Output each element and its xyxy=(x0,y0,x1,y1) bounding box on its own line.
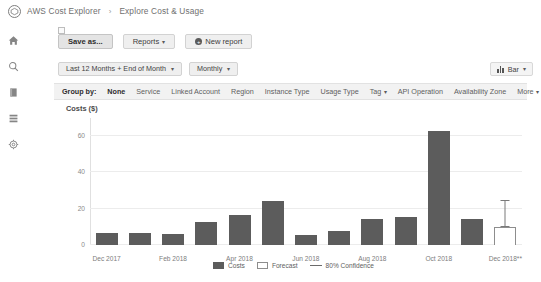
x-axis-tick-slot: Aug 2018 xyxy=(356,247,389,259)
legend-item-costs: Costs xyxy=(213,262,245,269)
chart-type-dropdown[interactable]: Bar ▾ xyxy=(490,62,533,76)
cost-bar[interactable] xyxy=(195,222,217,245)
legend-item-forecast: Forecast xyxy=(257,262,298,269)
x-axis-tick-slot xyxy=(123,247,156,259)
bar-slot[interactable] xyxy=(123,118,156,245)
chevron-down-icon: ▾ xyxy=(384,89,387,95)
legend-item-confidence: 80% Confidence xyxy=(310,262,374,269)
cost-chart: Costs ($) 0204060 Dec 2017Feb 2018Apr 20… xyxy=(54,102,533,272)
y-axis-tick-label: 0 xyxy=(81,241,85,248)
cost-bar[interactable] xyxy=(262,201,284,245)
group-by-item-api-operation[interactable]: API Operation xyxy=(398,87,443,96)
cost-bar[interactable] xyxy=(162,234,184,245)
group-by-more-label: More xyxy=(517,87,533,96)
group-by-item-tag-label: Tag xyxy=(370,87,382,96)
granularity-label: Monthly xyxy=(197,65,222,72)
report-toolbar: Save as... Reports ▾ + New report xyxy=(58,34,252,49)
x-axis-labels: Dec 2017Feb 2018Apr 2018Jun 2018Aug 2018… xyxy=(90,247,522,259)
bar-slot[interactable] xyxy=(489,118,522,245)
x-axis-tick-label: Oct 2018 xyxy=(425,255,452,262)
cost-bar[interactable] xyxy=(295,235,317,245)
bar-slot[interactable] xyxy=(256,118,289,245)
group-by-item-instance-type[interactable]: Instance Type xyxy=(265,87,310,96)
bar-slot[interactable] xyxy=(90,118,123,245)
group-by-item-none[interactable]: None xyxy=(107,87,125,96)
new-report-label: New report xyxy=(205,38,242,46)
x-axis-tick-label: Apr 2018 xyxy=(226,255,253,262)
x-axis-tick-label: Aug 2018 xyxy=(358,255,386,262)
y-axis-tick-label: 20 xyxy=(78,204,85,211)
bar-slot[interactable] xyxy=(389,118,422,245)
chart-title: Costs ($) xyxy=(66,104,98,113)
legend-label-confidence: 80% Confidence xyxy=(326,262,374,269)
x-axis-tick-label: Feb 2018 xyxy=(159,255,187,262)
cost-bar[interactable] xyxy=(229,215,251,245)
legend-label-forecast: Forecast xyxy=(272,262,298,269)
page-title: Explore Cost & Usage xyxy=(119,6,204,16)
panel-corner-marker xyxy=(58,27,65,34)
reports-label: Reports xyxy=(133,38,160,46)
app-title[interactable]: AWS Cost Explorer xyxy=(27,6,101,16)
cost-bar[interactable] xyxy=(461,219,483,245)
save-as-button[interactable]: Save as... xyxy=(58,34,113,49)
group-by-bar: Group by: None Service Linked Account Re… xyxy=(54,83,527,100)
x-axis-tick-label: Dec 2018** xyxy=(489,255,522,262)
bar-slot[interactable] xyxy=(190,118,223,245)
group-by-item-availability-zone[interactable]: Availability Zone xyxy=(454,87,506,96)
bar-slot[interactable] xyxy=(323,118,356,245)
sidebar-item-home[interactable] xyxy=(7,34,20,47)
group-by-item-linked-account[interactable]: Linked Account xyxy=(171,87,220,96)
save-as-label: Save as... xyxy=(68,38,103,46)
sidebar-item-settings[interactable] xyxy=(7,138,20,151)
x-axis-tick-slot xyxy=(389,247,422,259)
filter-bar: Last 12 Months + End of Month ▾ Monthly … xyxy=(58,62,523,76)
group-by-item-tag[interactable]: Tag ▾ xyxy=(370,87,387,96)
breadcrumb: AWS Cost Explorer › Explore Cost & Usage xyxy=(0,0,541,22)
date-range-label: Last 12 Months + End of Month xyxy=(66,65,166,72)
bar-slot[interactable] xyxy=(156,118,189,245)
x-axis-tick-label: Dec 2017 xyxy=(92,255,120,262)
confidence-interval-whisker xyxy=(505,200,506,227)
legend-swatch-confidence xyxy=(310,265,322,266)
bar-slot[interactable] xyxy=(289,118,322,245)
bar-group xyxy=(90,118,522,245)
chart-plot-area: 0204060 xyxy=(90,118,522,245)
cost-bar[interactable] xyxy=(129,233,151,245)
group-by-label: Group by: xyxy=(62,87,96,96)
sidebar-item-list[interactable] xyxy=(7,112,20,125)
cost-bar[interactable] xyxy=(428,131,450,245)
bar-slot[interactable] xyxy=(422,118,455,245)
sidebar-item-search[interactable] xyxy=(7,60,20,73)
group-by-item-region[interactable]: Region xyxy=(231,87,254,96)
cost-bar[interactable] xyxy=(96,233,118,245)
forecast-bar[interactable] xyxy=(494,227,516,245)
bar-slot[interactable] xyxy=(356,118,389,245)
cost-bar[interactable] xyxy=(361,219,383,245)
group-by-item-usage-type[interactable]: Usage Type xyxy=(320,87,358,96)
cost-bar[interactable] xyxy=(328,231,350,246)
cost-explorer-window: AWS Cost Explorer › Explore Cost & Usage xyxy=(0,0,541,282)
chart-legend: Costs Forecast 80% Confidence xyxy=(54,262,533,269)
x-axis-tick-slot xyxy=(455,247,488,259)
chart-type-label: Bar xyxy=(508,65,519,74)
bar-slot[interactable] xyxy=(456,118,489,245)
chevron-down-icon: ▾ xyxy=(523,66,526,72)
sidebar-item-reports[interactable] xyxy=(7,86,20,99)
reports-button[interactable]: Reports ▾ xyxy=(123,34,176,49)
chevron-down-icon: ▾ xyxy=(227,66,230,72)
x-axis-tick-slot: Apr 2018 xyxy=(223,247,256,259)
granularity-dropdown[interactable]: Monthly ▾ xyxy=(189,62,238,76)
aws-cube-icon xyxy=(8,5,21,18)
group-by-more-dropdown[interactable]: More ▾ xyxy=(517,87,539,96)
chevron-down-icon: ▾ xyxy=(536,89,539,95)
x-axis-tick-slot: Dec 2018** xyxy=(489,247,522,259)
bar-slot[interactable] xyxy=(223,118,256,245)
x-axis-tick-slot xyxy=(190,247,223,259)
group-by-item-service[interactable]: Service xyxy=(136,87,160,96)
y-axis-tick-label: 60 xyxy=(78,132,85,139)
legend-swatch-forecast xyxy=(257,262,268,269)
cost-bar[interactable] xyxy=(395,217,417,245)
new-report-button[interactable]: + New report xyxy=(185,34,252,49)
plus-circle-icon: + xyxy=(195,38,202,45)
date-range-dropdown[interactable]: Last 12 Months + End of Month ▾ xyxy=(58,62,182,76)
